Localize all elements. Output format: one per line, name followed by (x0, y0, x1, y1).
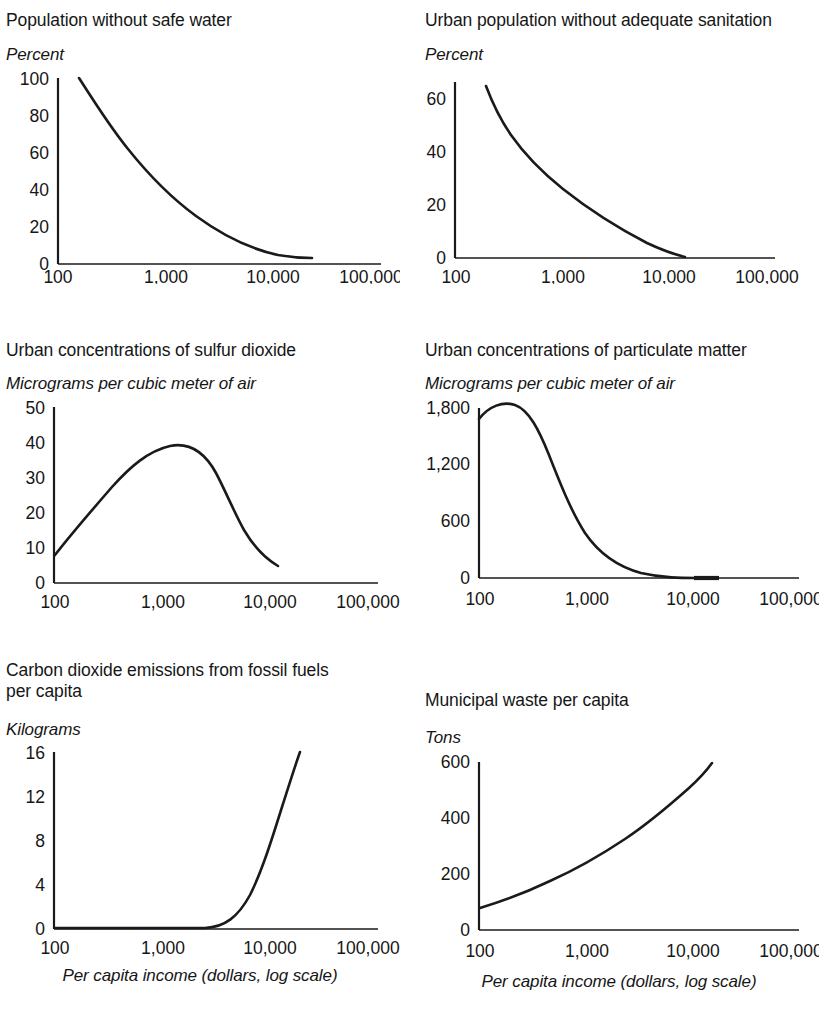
ytick-label: 0 (460, 568, 470, 588)
data-curve-sulfur-dioxide (55, 446, 278, 567)
data-curve-safe-water (79, 78, 312, 258)
xtick-label: 100,000 (735, 267, 799, 284)
xtick-label: 100 (465, 941, 494, 961)
ytick-label: 20 (26, 503, 46, 523)
xtick-label: 10,000 (666, 589, 720, 609)
xtick-label: 10,000 (666, 941, 720, 961)
panel-title-safe-water: Population without safe water (6, 10, 425, 31)
x-axis-caption-right: Per capita income (dollars, log scale) (419, 972, 819, 992)
data-curve-municipal-waste (480, 763, 712, 908)
data-curve-particulate-matter (479, 404, 697, 578)
panel-sanitation: Urban population without adequate sanita… (425, 10, 838, 284)
ytick-label: 0 (35, 573, 45, 593)
ytick-label: 4 (35, 875, 45, 895)
ytick-label: 600 (441, 752, 470, 772)
ytick-label: 100 (20, 69, 49, 89)
ytick-label: 60 (30, 143, 50, 163)
ytick-label: 400 (441, 808, 470, 828)
xtick-label: 10,000 (642, 267, 696, 284)
unit-label-particulate-matter: Micrograms per cubic meter of air (425, 374, 838, 394)
xtick-label: 100,000 (336, 592, 400, 612)
chart-carbon-dioxide: 16 12 8 4 0 100 1,000 10,000 100,000 (0, 743, 400, 958)
xtick-label: 100 (40, 938, 69, 958)
figure-grid: Population without safe water Percent 10… (0, 0, 838, 1017)
ytick-label: 40 (30, 180, 50, 200)
unit-label-sanitation: Percent (425, 45, 838, 65)
ytick-label: 1,800 (426, 398, 470, 418)
ytick-label: 0 (436, 248, 446, 268)
xtick-label: 1,000 (565, 941, 609, 961)
ytick-label: 12 (26, 787, 45, 807)
x-axis-caption-left: Per capita income (dollars, log scale) (0, 966, 400, 986)
ytick-label: 600 (441, 511, 470, 531)
data-curve-sanitation (486, 86, 685, 257)
xtick-label: 100 (40, 592, 69, 612)
ytick-label: 1,200 (426, 454, 470, 474)
xtick-label: 100,000 (759, 941, 819, 961)
chart-safe-water: 100 80 60 40 20 0 100 1,000 10,000 100,0… (0, 69, 400, 284)
ytick-label: 40 (427, 142, 447, 162)
ytick-label: 0 (35, 919, 45, 939)
data-curve-carbon-dioxide (55, 752, 300, 928)
xtick-label: 1,000 (541, 267, 585, 284)
xtick-label: 100,000 (339, 267, 400, 284)
ytick-label: 60 (427, 89, 447, 109)
panel-title-sulfur-dioxide: Urban concentrations of sulfur dioxide (6, 340, 425, 361)
ytick-label: 8 (35, 831, 45, 851)
ytick-label: 50 (26, 398, 46, 418)
xtick-label: 100,000 (759, 589, 819, 609)
ytick-label: 200 (441, 864, 470, 884)
xtick-label: 100 (441, 267, 470, 284)
panel-particulate-matter: Urban concentrations of particulate matt… (425, 340, 838, 612)
panel-title-sanitation: Urban population without adequate sanita… (425, 10, 838, 31)
xtick-label: 10,000 (243, 938, 297, 958)
chart-sanitation: 60 40 20 0 100 1,000 10,000 100,000 (419, 69, 819, 284)
ytick-label: 20 (30, 217, 50, 237)
chart-particulate-matter: 1,800 1,200 600 0 100 1,000 10,000 100,0… (419, 397, 819, 612)
xtick-label: 100 (43, 267, 72, 284)
chart-sulfur-dioxide: 50 40 30 20 10 0 100 1,000 10,000 100,00… (0, 397, 400, 612)
xtick-label: 10,000 (246, 267, 300, 284)
unit-label-carbon-dioxide: Kilograms (6, 720, 425, 740)
ytick-label: 0 (460, 920, 470, 940)
panel-title-municipal-waste: Municipal waste per capita (425, 690, 838, 711)
panel-title-carbon-dioxide: Carbon dioxide emissions from fossil fue… (6, 660, 425, 703)
panel-title-particulate-matter: Urban concentrations of particulate matt… (425, 340, 838, 361)
unit-label-sulfur-dioxide: Micrograms per cubic meter of air (6, 374, 425, 394)
chart-municipal-waste: 600 400 200 0 100 1,000 10,000 100,000 (419, 751, 819, 966)
ytick-label: 40 (26, 433, 46, 453)
ytick-label: 80 (30, 106, 50, 126)
ytick-label: 10 (26, 538, 46, 558)
xtick-label: 1,000 (141, 592, 185, 612)
panel-carbon-dioxide: Carbon dioxide emissions from fossil fue… (6, 660, 425, 986)
ytick-label: 16 (26, 743, 45, 763)
xtick-label: 1,000 (141, 938, 185, 958)
panel-sulfur-dioxide: Urban concentrations of sulfur dioxide M… (6, 340, 425, 612)
ytick-label: 30 (26, 468, 46, 488)
unit-label-municipal-waste: Tons (425, 728, 838, 748)
xtick-label: 1,000 (565, 589, 609, 609)
xtick-label: 10,000 (243, 592, 297, 612)
panel-safe-water: Population without safe water Percent 10… (6, 10, 425, 284)
xtick-label: 1,000 (144, 267, 188, 284)
unit-label-safe-water: Percent (6, 45, 425, 65)
xtick-label: 100 (465, 589, 494, 609)
panel-municipal-waste: Municipal waste per capita Tons 600 400 … (425, 690, 838, 992)
xtick-label: 100,000 (336, 938, 400, 958)
ytick-label: 20 (427, 195, 447, 215)
